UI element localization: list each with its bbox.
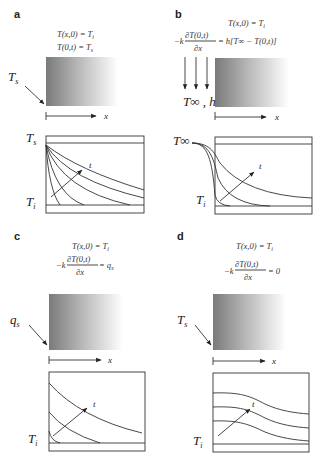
slab-gradient [49, 294, 123, 350]
ti-label: Ti [196, 192, 205, 209]
slab-gradient [215, 58, 289, 107]
x-axis-label: x [274, 112, 279, 122]
arrow-icon [29, 325, 47, 345]
tinf-label: T∞ [173, 133, 190, 148]
initial-condition: T(x,0) = Ti [228, 18, 265, 29]
plot-box [215, 137, 312, 214]
surface-temp-label: Ts [177, 312, 187, 329]
bc-rhs: = 0 [268, 266, 281, 276]
panel-label: b [175, 8, 182, 20]
heat-flux-label: qs [10, 312, 20, 329]
slab-gradient [46, 57, 118, 106]
surface-temp-label: Ts [8, 69, 18, 86]
initial-condition: T(x,0) = Ti [236, 241, 273, 252]
bc-lhs: −k [224, 266, 234, 276]
panel-label: d [177, 230, 184, 242]
ti-label: Ti [28, 431, 37, 448]
plot-box [49, 372, 145, 451]
bc-lhs: −k [56, 260, 66, 270]
panel-d: d T(x,0) = Ti −k ∂T(0,t) ∂x = 0 Ts x Ti … [177, 230, 309, 452]
initial-condition: T(x,0) = Ti [57, 29, 94, 40]
x-axis-label: x [107, 355, 112, 365]
bc-denominator: ∂x [194, 43, 202, 53]
panel-label: a [14, 8, 21, 20]
bc-rhs: = qs [99, 260, 114, 271]
heat-conduction-diagram: a T(x,0) = Ti T(0,t) = Ts Ts x Ts Ti t b… [0, 0, 327, 464]
ts-label: Ts [26, 130, 36, 147]
panel-b: b T(x,0) = Ti −k ∂T(0,t) ∂x = h[T∞ − T(0… [173, 8, 312, 214]
initial-condition: T(x,0) = Ti [72, 241, 109, 252]
panel-c: c T(x,0) = Ti −k ∂T(0,t) ∂x = qs qs x Ti… [10, 230, 145, 451]
ti-label: Ti [26, 194, 35, 211]
arrow-icon [25, 86, 44, 104]
x-axis-label: x [103, 111, 108, 121]
panel-label: c [14, 230, 20, 242]
x-axis-label: x [271, 356, 276, 366]
bc-denominator: ∂x [244, 272, 252, 282]
bc-numerator: ∂T(0,t) [185, 30, 208, 40]
bc-numerator: ∂T(0,t) [67, 254, 90, 264]
plot-box [46, 136, 144, 213]
panel-a: a T(x,0) = Ti T(0,t) = Ts Ts x Ts Ti t [8, 8, 144, 213]
bc-denominator: ∂x [76, 267, 84, 277]
bc-lhs: −k [174, 36, 184, 46]
arrow-icon [195, 325, 211, 345]
surface-label: T∞ , h [183, 94, 216, 109]
ti-label: Ti [193, 433, 202, 450]
bc-rhs: = h[T∞ − T(0,t)] [218, 36, 277, 46]
slab-gradient [213, 294, 286, 350]
bc-numerator: ∂T(0,t) [235, 259, 258, 269]
boundary-condition: T(0,t) = Ts [57, 42, 94, 53]
